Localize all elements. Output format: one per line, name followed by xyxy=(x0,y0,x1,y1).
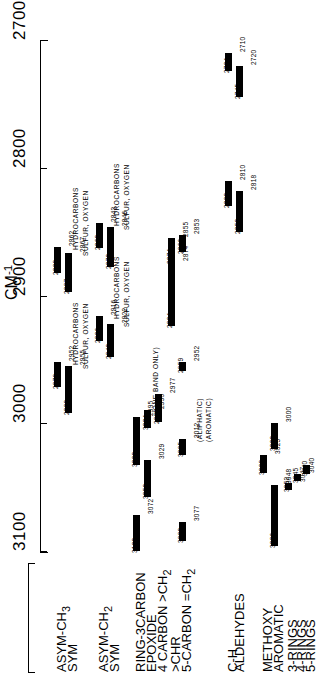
row-name-5-rings: 5-RINGS xyxy=(303,619,317,672)
axis-title-unit: CM xyxy=(3,275,20,300)
bar-label-aromatic-0-low: 3096 xyxy=(269,533,276,548)
bar-label-asym-ch2-1-low: 2863 xyxy=(94,235,101,250)
annotation-3: SULFUR, OXYGEN xyxy=(82,191,89,257)
bar-label-5-carbon-ch2-2-low: 2959 xyxy=(177,358,184,373)
bar-label-aldehydes-ch-aromatic-0-high: 2818 xyxy=(250,174,257,189)
group-label-aldehydes: ALDEHYDES xyxy=(232,593,247,672)
axis-tick-3000 xyxy=(41,423,47,424)
annotation-8: (ONE BAND ONLY) xyxy=(152,347,159,413)
chart-row-5-rings: 303330405-RINGS xyxy=(303,0,317,684)
bar-label-5-carbon-ch2-3-high: 2853 xyxy=(193,219,200,234)
axis-tick-2900 xyxy=(41,296,47,297)
annotation-5: SULFUR, OXYGEN xyxy=(123,261,130,327)
row-label-bracket-arm-top xyxy=(28,563,35,564)
bar-label-5-carbon-ch2-1-low: 3025 xyxy=(177,442,184,457)
annotation-1: SULFUR, OXYGEN xyxy=(82,303,89,369)
row-name-sym: SYM xyxy=(107,644,122,672)
annotation-6: HYDROCARBONS xyxy=(113,163,120,226)
bar-label-ring-3carbon-0-low: 3100 xyxy=(131,538,138,553)
row-name-aromatic: AROMATIC xyxy=(271,604,286,672)
annotation-4: HYDROCARBONS xyxy=(113,256,120,319)
axis-title: CM-1 xyxy=(2,265,21,300)
bar-label-methoxy-0-low: 3039 xyxy=(258,460,265,475)
annotation-0: HYDROCARBONS xyxy=(72,302,79,365)
bar-label-asym-ch3-0-low: 2972 xyxy=(52,374,59,389)
annotation-9: (ALIPHATIC) xyxy=(196,398,203,442)
chart-row-aldehydes-ch-aromatic: 2818285027202745 xyxy=(236,0,250,684)
chart-row-sym: 2922294828462878SYM xyxy=(107,0,121,684)
bar-label-asym-ch2-0-low: 2936 xyxy=(94,328,101,343)
axis-tick-2700 xyxy=(41,40,47,41)
bar-label-chr-1-low: 2874 xyxy=(166,249,173,264)
row-name-5-carbon-ch2: 5-CARBON =CH2 xyxy=(179,569,197,672)
bar-label-sym-0-low: 2992 xyxy=(63,400,70,415)
bar-label-chr-0-low: 2924 xyxy=(166,313,173,328)
ir-correlation-chart: 27002800290030003100 CM-1 29522972286228… xyxy=(0,0,317,684)
bar-label-sym-1-low: 2878 xyxy=(105,254,112,269)
row-label-bracket-arm-bottom xyxy=(28,672,35,673)
bar-label-5-carbon-ch2-3-low: 2866 xyxy=(177,239,184,254)
bar-label-5-carbon-ch2-0-high: 3077 xyxy=(193,505,200,520)
axis-cap-bottom xyxy=(40,552,48,553)
bar-label-sym-1-low: 2897 xyxy=(63,278,70,293)
chart-row-4carbon-ch2: 297729994 CARBON >CH2 xyxy=(155,0,169,684)
bar-label-4-rings-0-low: 3045 xyxy=(292,467,299,482)
bar-label-aldehydes-ch-aliphatic-0-low: 2830 xyxy=(223,193,230,208)
axis-title-exponent: -1 xyxy=(2,265,14,275)
axis-tick-3100 xyxy=(41,551,47,552)
bar-label-ring-3carbon-1-low: 3033 xyxy=(131,452,138,467)
bar-label-aldehydes-ch-aromatic-0-low: 2850 xyxy=(234,218,241,233)
annotation-7: SULFUR, OXYGEN xyxy=(123,164,130,230)
bar-label-aromatic-1-low: 3020 xyxy=(269,436,276,451)
bar-label-epoxide-1-low: 3004 xyxy=(142,415,149,430)
bar-label-5-rings-0-low: 3040 xyxy=(301,461,308,476)
bar-label-asym-ch3-1-low: 2882 xyxy=(52,259,59,274)
axis-tick-2800 xyxy=(41,168,47,169)
bar-label-aldehydes-ch-aromatic-1-low: 2745 xyxy=(234,84,241,99)
annotation-10: (AROMATIC) xyxy=(205,397,212,441)
bar-label-aldehydes-ch-aromatic-1-high: 2720 xyxy=(250,49,257,64)
chart-row-5-carbon-ch2: 307730923012302529522959285328665-CARBON… xyxy=(179,0,193,684)
bar-label-5-carbon-ch2-2-high: 2952 xyxy=(193,346,200,361)
bar-label-aldehydes-ch-aliphatic-1-low: 2724 xyxy=(223,57,230,72)
annotation-2: HYDROCARBONS xyxy=(72,187,79,250)
bar-label-5-carbon-ch2-0-low: 3092 xyxy=(177,528,184,543)
chart-row-aromatic: 3048309630003020AROMATIC xyxy=(271,0,285,684)
row-label-bracket xyxy=(28,563,29,673)
bar-label-sym-0-low: 2948 xyxy=(105,344,112,359)
row-name-sym: SYM xyxy=(65,644,80,672)
bar-label-epoxide-0-low: 3058 xyxy=(142,484,149,499)
bar-label-3-rings-0-low: 3052 xyxy=(283,476,290,491)
